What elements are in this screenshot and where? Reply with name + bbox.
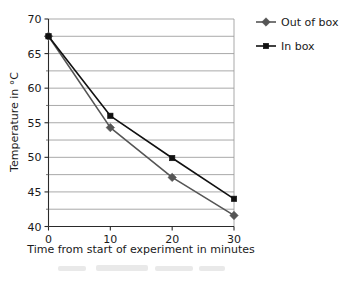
y-axis: 40455055606570	[28, 13, 49, 234]
y-tick-marks	[45, 19, 49, 227]
y-tick-label: 50	[28, 151, 42, 164]
series-in-box	[46, 34, 237, 202]
data-point-marker	[108, 113, 113, 118]
y-axis-title: Temperature in °C	[8, 72, 21, 173]
temperature-line-chart: 40455055606570 0102030 Out of boxIn box …	[0, 0, 345, 283]
data-point-marker	[230, 211, 238, 219]
data-point-marker	[46, 34, 51, 39]
grid-lines	[49, 19, 235, 227]
y-tick-labels: 40455055606570	[28, 13, 42, 234]
x-axis-title: Time from start of experiment in minutes	[26, 243, 255, 256]
scan-artifact	[58, 265, 225, 271]
legend-item-out-of-box[interactable]: Out of box	[256, 16, 339, 29]
data-point-marker	[169, 155, 174, 160]
series-line	[49, 36, 235, 215]
data-point-marker	[231, 196, 236, 201]
y-tick-label: 45	[28, 186, 42, 199]
legend-item-in-box[interactable]: In box	[256, 40, 315, 53]
legend-label: Out of box	[281, 16, 339, 29]
chart-legend: Out of boxIn box	[256, 16, 339, 53]
y-tick-label: 60	[28, 82, 42, 95]
chart-canvas: 40455055606570 0102030 Out of boxIn box …	[0, 0, 345, 283]
x-tick-marks	[49, 227, 235, 231]
y-tick-label: 70	[28, 13, 42, 26]
y-tick-label: 65	[28, 48, 42, 61]
data-point-marker	[262, 18, 270, 26]
legend-label: In box	[281, 40, 315, 53]
data-point-marker	[263, 43, 268, 48]
y-tick-label: 40	[28, 221, 42, 234]
y-tick-label: 55	[28, 117, 42, 130]
